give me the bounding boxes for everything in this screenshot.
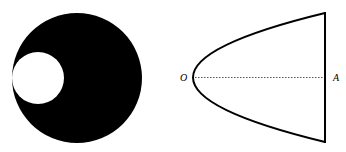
disk-with-hole-figure — [12, 13, 142, 143]
vertex-label-o: O — [180, 72, 187, 83]
axis-end-label-a: A — [332, 72, 340, 83]
inner-white-hole — [12, 52, 64, 104]
diagram-canvas: O A — [0, 0, 346, 152]
parabolic-segment-figure: O A — [180, 12, 340, 143]
